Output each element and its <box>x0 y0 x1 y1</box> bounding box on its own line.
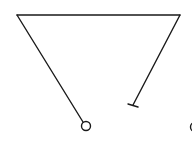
left-terminal-circle <box>82 122 91 131</box>
right-arm <box>133 15 180 105</box>
diagram-svg <box>0 0 192 146</box>
diagram-canvas <box>0 0 192 146</box>
left-arm <box>17 15 83 122</box>
edge-partial-circle <box>191 123 193 132</box>
